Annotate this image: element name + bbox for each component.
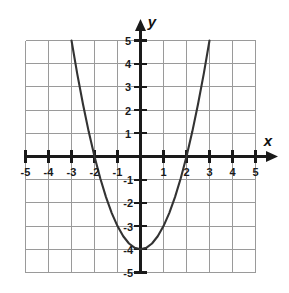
y-tick-label: 3: [125, 81, 131, 93]
y-tick-label: -3: [123, 221, 133, 233]
x-axis-arrow: [266, 151, 278, 162]
graph-canvas: -5 -4 -3 -2 -1 1 2 3 4 5 5 4 3 2 1 -1 -2…: [0, 0, 289, 293]
x-axis-label: x: [263, 132, 273, 149]
y-tick-label: -1: [123, 174, 133, 186]
y-axis-arrow: [135, 19, 146, 31]
y-tick-label: -5: [123, 267, 133, 279]
y-tick-label: 4: [125, 58, 132, 70]
coordinate-plane-graph: -5 -4 -3 -2 -1 1 2 3 4 5 5 4 3 2 1 -1 -2…: [0, 0, 289, 293]
x-tick-label: 5: [252, 166, 258, 178]
y-tick-label: -4: [123, 244, 134, 256]
x-tick-label: -4: [44, 166, 55, 178]
y-tick-label: 5: [125, 35, 131, 47]
x-tick-label: -2: [90, 166, 100, 178]
x-axis: [26, 151, 279, 162]
x-tick-label: 3: [206, 166, 212, 178]
x-tick-label: 4: [229, 166, 236, 178]
y-tick-label: -2: [123, 197, 133, 209]
y-tick-label: 1: [125, 128, 131, 140]
y-axis-label: y: [147, 13, 157, 30]
x-tick-label: -5: [21, 166, 31, 178]
x-tick-label: -3: [67, 166, 77, 178]
x-tick-label: 1: [160, 166, 166, 178]
x-tick-label: 2: [183, 166, 189, 178]
y-tick-label: 2: [125, 105, 131, 117]
y-axis: [135, 19, 146, 273]
x-tick-label: -1: [113, 166, 123, 178]
